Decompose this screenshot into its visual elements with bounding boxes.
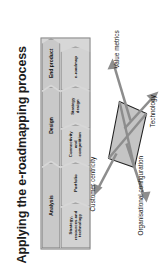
phase-design-label: Design xyxy=(48,117,54,134)
process-bar: Analysis Design End product Strategy, re… xyxy=(40,37,90,249)
step-3-label: Connectivity and competition xyxy=(68,128,83,160)
axis-label-value-metrics: Value metrics xyxy=(112,30,119,68)
radar-svg xyxy=(86,5,162,253)
phase-analysis[interactable]: Analysis xyxy=(41,162,60,248)
step-e-roadmap[interactable]: e-roadmap xyxy=(60,46,90,90)
phase-analysis-label: Analysis xyxy=(48,195,54,216)
process-phase-row: Analysis Design End product xyxy=(41,38,60,248)
step-2-label: Portfolio xyxy=(73,174,78,192)
step-4-label: Strategy design xyxy=(70,90,80,122)
phase-end-product-label: End product xyxy=(48,48,54,77)
axis-label-organisational-configuration: Organisational configuration xyxy=(136,155,143,235)
phase-end-product[interactable]: End product xyxy=(41,38,60,91)
process-step-row: Strategy, resources and technology Portf… xyxy=(60,38,90,248)
radar-diagram: Customer centricity Value metrics Organi… xyxy=(86,5,162,253)
axis-label-technology: Technology xyxy=(148,95,155,127)
axis-line-customer-centricity xyxy=(96,153,116,191)
phase-design[interactable]: Design xyxy=(41,86,60,166)
step-5-label: e-roadmap xyxy=(73,56,78,78)
step-portfolio[interactable]: Portfolio xyxy=(60,162,90,206)
figure-canvas: Applying the e-roadmapping process Analy… xyxy=(0,0,164,271)
step-1-label: Strategy, resources and technology xyxy=(68,206,83,244)
figure-title: Applying the e-roadmapping process xyxy=(14,46,28,263)
axis-label-customer-centricity: Customer centricity xyxy=(88,156,95,211)
step-strategy-resources-technology[interactable]: Strategy, resources and technology xyxy=(60,202,90,248)
step-connectivity-competition[interactable]: Connectivity and competition xyxy=(60,124,90,166)
step-strategy-design[interactable]: Strategy design xyxy=(60,86,90,128)
